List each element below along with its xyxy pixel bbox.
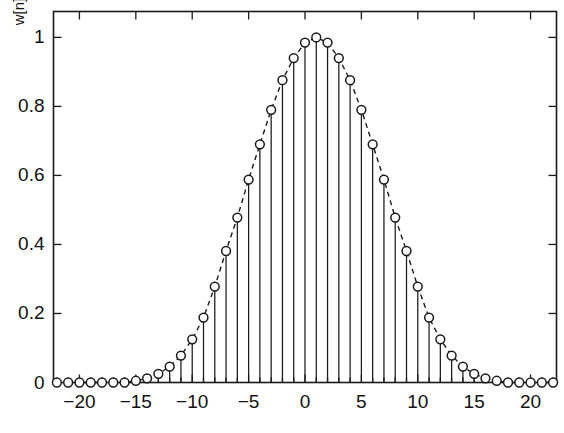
x-tick-label: 20 [501,391,561,413]
x-tick-label: 0 [275,391,335,413]
y-tick-label: 0 [34,372,45,394]
x-tick-label: −10 [162,391,222,413]
x-tick-label: 5 [331,391,391,413]
x-tick-label: −5 [219,391,279,413]
stem-plot-canvas [0,0,564,433]
stem-lines [136,37,497,382]
y-tick-label: 1 [34,26,45,48]
x-tick-label: 15 [444,391,504,413]
x-tick-label: 10 [388,391,448,413]
y-tick-label: 0.8 [18,95,44,117]
x-tick-label: −15 [106,391,166,413]
y-tick-label: 0.2 [18,302,44,324]
chart-figure: w[n] 00.20.40.60.81 −20−15−10−505101520 [0,0,564,433]
y-tick-label: 0.6 [18,164,44,186]
x-tick-label: −20 [49,391,109,413]
y-tick-label: 0.4 [18,233,44,255]
